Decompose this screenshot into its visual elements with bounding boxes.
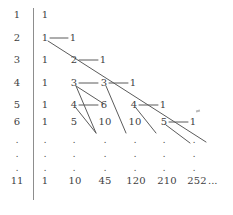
- cell-dot-r1c3: .: [103, 135, 106, 145]
- cell-r4c1: 1: [42, 78, 49, 88]
- cell-dot-r3c5: .: [162, 163, 165, 173]
- stray-mark: [196, 110, 200, 113]
- cell-r11c2: 10: [68, 176, 81, 186]
- cell-r5c5: 1: [160, 100, 167, 110]
- cell-dot-r1c6: .: [192, 135, 195, 145]
- cell-r5c1: 1: [42, 100, 49, 110]
- cell-r6c2: 5: [71, 117, 78, 127]
- cell-r4c3: 3: [101, 78, 108, 88]
- cell-dot-r2c5: .: [162, 149, 165, 159]
- cell-r4c4: 1: [130, 78, 137, 88]
- cell-r11c4: 120: [126, 176, 146, 186]
- cell-r11c5: 210: [157, 176, 177, 186]
- cell-r3c3: 1: [100, 55, 107, 65]
- cell-r6c1: 1: [42, 117, 49, 127]
- cell-r6c3: 10: [98, 117, 111, 127]
- cell-dot-r2c4: .: [133, 149, 136, 159]
- cell-dot-r1c4: .: [133, 135, 136, 145]
- cell-dot-r3c6: .: [192, 163, 195, 173]
- cell-dot-r3c3: .: [103, 163, 106, 173]
- row-label-5: 5: [14, 100, 20, 110]
- row-label-4: 4: [14, 78, 20, 88]
- cell-r11c1: 1: [42, 176, 49, 186]
- vertical-separator-rule: [33, 8, 34, 200]
- cell-dot-r1c5: .: [162, 135, 165, 145]
- cell-dot-r2c6: .: [192, 149, 195, 159]
- row-label-2: 2: [14, 33, 20, 43]
- row-label-6: 6: [14, 117, 20, 127]
- cell-dot-r2c3: .: [103, 149, 106, 159]
- cell-r11c6: 252: [187, 176, 207, 186]
- row-label-11: 11: [11, 176, 24, 186]
- cell-dot-r2c1: .: [43, 149, 46, 159]
- cell-r2c1: 1: [42, 33, 49, 43]
- cell-r6c5: 5: [161, 117, 168, 127]
- row-label-dot-3: .: [15, 163, 18, 173]
- cell-dot-r3c4: .: [133, 163, 136, 173]
- pascals-triangle-figure: 1 2 3 4 5 6 . . . 11 1 1 1 1 2 1 1 3 3 1…: [0, 0, 233, 215]
- cell-dot-r2c2: .: [72, 149, 75, 159]
- cell-dot-r3c2: .: [72, 163, 75, 173]
- cell-r5c2: 4: [71, 100, 78, 110]
- row-label-1: 1: [14, 10, 20, 20]
- cell-r2c2: 1: [70, 33, 77, 43]
- cell-r6c4: 10: [128, 117, 141, 127]
- cell-r11c3: 45: [98, 176, 111, 186]
- row-label-dot-1: .: [15, 135, 18, 145]
- cell-r3c1: 1: [42, 55, 49, 65]
- cell-r5c4: 4: [131, 100, 138, 110]
- cell-r6c6: 1: [190, 117, 197, 127]
- row-11-ellipsis: ...: [208, 176, 218, 186]
- cell-r3c2: 2: [71, 55, 78, 65]
- row-label-dot-2: .: [15, 149, 18, 159]
- cell-r1c1: 1: [42, 10, 49, 20]
- cell-dot-r3c1: .: [43, 163, 46, 173]
- row-label-3: 3: [14, 55, 20, 65]
- cell-r5c3: 6: [101, 100, 108, 110]
- cell-dot-r1c2: .: [72, 135, 75, 145]
- cell-dot-r1c1: .: [43, 135, 46, 145]
- cell-r4c2: 3: [71, 78, 78, 88]
